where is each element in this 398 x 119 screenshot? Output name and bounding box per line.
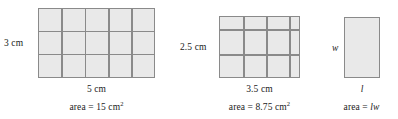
width-label-5cm: 5 cm bbox=[38, 85, 155, 95]
height-label-3cm: 3 cm bbox=[4, 39, 23, 49]
gridline-vertical bbox=[108, 9, 110, 77]
gridline-horizontal bbox=[39, 31, 154, 33]
rectangle-shape-15 bbox=[38, 8, 155, 78]
gridline-vertical bbox=[85, 9, 87, 77]
area-variables: lw bbox=[370, 102, 379, 112]
gridline-horizontal bbox=[220, 29, 299, 31]
width-label-l: l bbox=[344, 85, 380, 95]
figure-rectangle-general: w l area = lw bbox=[325, 0, 398, 119]
area-text: area = 8.75 cm bbox=[229, 102, 287, 112]
width-label-35cm: 3.5 cm bbox=[219, 85, 300, 95]
area-label-15: area = 15 cm2 bbox=[18, 103, 175, 113]
gridline-vertical bbox=[266, 17, 268, 77]
gridline-horizontal bbox=[39, 54, 154, 56]
area-exponent: 2 bbox=[287, 100, 290, 107]
area-label-lw: area = lw bbox=[325, 103, 398, 113]
figure-rectangle-875: 2.5 cm 3.5 cm area = 8.75 cm2 bbox=[180, 0, 335, 119]
gridline-horizontal bbox=[220, 54, 299, 56]
area-label-875: area = 8.75 cm2 bbox=[194, 103, 325, 113]
rectangle-shape-general bbox=[344, 17, 380, 78]
height-label-w: w bbox=[332, 44, 338, 54]
figure-rectangle-15: 3 cm 5 cm area = 15 cm2 bbox=[0, 0, 199, 119]
area-text: area = 15 cm bbox=[70, 102, 121, 112]
rectangle-shape-875 bbox=[219, 16, 300, 78]
area-text: area = bbox=[344, 102, 371, 112]
gridline-vertical bbox=[131, 9, 133, 77]
height-label-25cm: 2.5 cm bbox=[180, 43, 206, 53]
gridline-vertical bbox=[61, 9, 63, 77]
area-exponent: 2 bbox=[120, 100, 123, 107]
gridline-vertical bbox=[243, 17, 245, 77]
gridline-vertical bbox=[289, 17, 291, 77]
